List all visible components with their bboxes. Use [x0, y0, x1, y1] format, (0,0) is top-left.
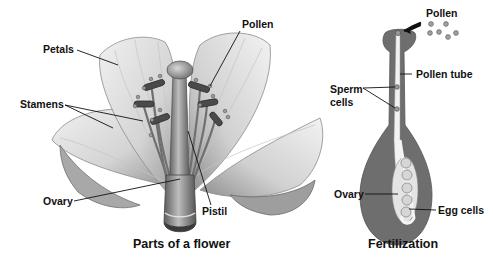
label-ovary-fert: Ovary	[334, 189, 364, 200]
stigma	[167, 61, 193, 79]
label-petals: Petals	[43, 44, 74, 55]
caption-fertilization: Fertilization	[368, 237, 438, 251]
diagram-canvas	[0, 0, 493, 263]
pollen-grain-on-stigma	[395, 30, 400, 35]
label-pollen-tube: Pollen tube	[416, 69, 473, 80]
label-pollen: Pollen	[242, 19, 274, 30]
label-pistil: Pistil	[202, 206, 227, 217]
label-stamens: Stamens	[20, 99, 64, 110]
flower-illustration	[52, 31, 323, 232]
label-sperm-cells-line2: cells	[330, 97, 353, 108]
label-egg-cells: Egg cells	[438, 205, 484, 216]
floating-pollen	[428, 22, 459, 40]
caption-parts-of-a-flower: Parts of a flower	[133, 237, 230, 251]
label-ovary: Ovary	[43, 196, 73, 207]
label-pollen-fert: Pollen	[426, 8, 458, 19]
label-sperm-cells-line1: Sperm	[330, 84, 363, 95]
flower-ovary	[164, 175, 196, 232]
